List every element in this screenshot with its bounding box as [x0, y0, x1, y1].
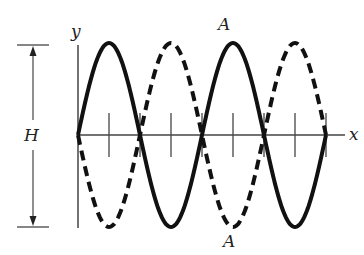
x-axis-label: x	[349, 124, 359, 144]
height-label: H	[23, 125, 40, 145]
antinode-label-bottom: A	[221, 231, 235, 251]
y-axis-label: y	[70, 21, 81, 41]
standing-wave-diagram: H y x A A	[0, 0, 364, 255]
arrow-up-icon	[30, 46, 37, 56]
arrow-down-icon	[30, 216, 37, 226]
antinode-label-top: A	[216, 14, 230, 34]
